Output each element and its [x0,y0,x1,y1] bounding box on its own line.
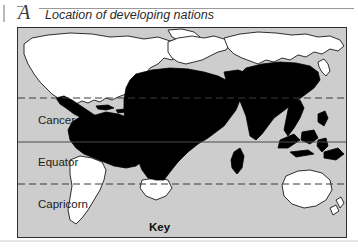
world-map: Cancer Equator Capricorn Key Countries g… [17,27,347,238]
figure-title: Location of developing nations [45,8,214,22]
tropic-of-capricorn-label: Capricorn [38,198,88,210]
page-edge-mark [3,5,5,22]
figure-container: A Location of developing nations [0,0,358,248]
equator-label: Equator [38,156,78,168]
figure-letter: A [18,1,30,24]
tropic-of-cancer-label: Cancer [38,114,75,126]
key-description-line-1: Countries generally considered [153,237,312,238]
figure-header: A Location of developing nations [0,0,358,27]
map-key: Key Countries generally considered to be… [130,221,347,238]
key-title: Key [149,221,170,233]
scan-bottom-edge [0,240,358,242]
